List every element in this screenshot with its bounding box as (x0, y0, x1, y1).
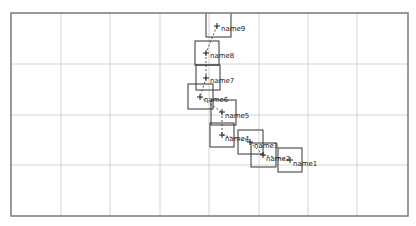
link-name7-name6 (200, 78, 206, 97)
node-name9[interactable]: name9 (206, 10, 245, 37)
node-name8[interactable]: name8 (195, 41, 234, 65)
node-name4[interactable]: name4 (210, 123, 250, 147)
node-label: name1 (293, 160, 317, 168)
link-name9-name8 (206, 26, 217, 53)
node-name7[interactable]: name7 (196, 65, 234, 90)
grid-lines (11, 13, 408, 216)
node-label: name9 (221, 25, 245, 33)
diagram-canvas: name9name8name7name6name5name4name3name2… (0, 0, 416, 226)
node-label: name8 (210, 52, 234, 60)
node-layer: name9name8name7name6name5name4name3name2… (188, 10, 317, 172)
node-label: name7 (210, 77, 234, 85)
node-label: name5 (225, 112, 249, 120)
node-name6[interactable]: name6 (188, 84, 229, 109)
node-label: name4 (225, 135, 250, 143)
